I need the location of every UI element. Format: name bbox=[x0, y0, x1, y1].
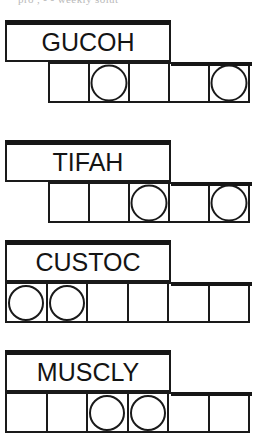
puzzle-row: CUSTOC bbox=[0, 240, 263, 343]
answer-cell[interactable] bbox=[88, 284, 129, 321]
answer-grid[interactable] bbox=[48, 182, 250, 223]
scrambled-word: CUSTOC bbox=[7, 250, 169, 275]
answer-cell[interactable] bbox=[50, 64, 90, 101]
answer-cell[interactable] bbox=[7, 394, 48, 431]
puzzle-row: MUSCLY bbox=[0, 350, 263, 441]
answer-cell[interactable] bbox=[210, 184, 248, 221]
word-box[interactable]: CUSTOC bbox=[5, 240, 171, 282]
circle-marker bbox=[130, 395, 166, 431]
answer-cell[interactable] bbox=[169, 284, 210, 321]
answer-cell[interactable] bbox=[129, 394, 170, 431]
answer-cell[interactable] bbox=[7, 284, 48, 321]
answer-cell[interactable] bbox=[169, 394, 210, 431]
scrambled-word: TIFAH bbox=[7, 150, 169, 175]
circle-marker bbox=[131, 184, 168, 221]
answer-cell[interactable] bbox=[88, 394, 129, 431]
answer-cell[interactable] bbox=[170, 64, 210, 101]
answer-cell[interactable] bbox=[210, 64, 248, 101]
answer-grid[interactable] bbox=[48, 62, 250, 103]
grid-top-rule bbox=[171, 182, 252, 186]
puzzle-row: TIFAH bbox=[0, 140, 263, 243]
circle-marker bbox=[211, 184, 248, 221]
grid-top-rule bbox=[171, 392, 252, 396]
circle-marker bbox=[8, 285, 44, 321]
circle-marker bbox=[211, 64, 248, 101]
answer-cell[interactable] bbox=[210, 394, 249, 431]
answer-grid[interactable] bbox=[5, 282, 250, 323]
answer-grid[interactable] bbox=[5, 392, 250, 433]
circle-marker bbox=[89, 395, 125, 431]
grid-top-rule bbox=[171, 62, 252, 66]
circle-marker bbox=[49, 285, 85, 321]
grid-top-rule bbox=[171, 282, 252, 286]
word-box[interactable]: MUSCLY bbox=[5, 350, 171, 392]
answer-cell[interactable] bbox=[48, 394, 89, 431]
answer-cell[interactable] bbox=[50, 184, 90, 221]
answer-cell[interactable] bbox=[90, 64, 130, 101]
scrambled-word: MUSCLY bbox=[7, 360, 169, 385]
answer-cell[interactable] bbox=[130, 184, 170, 221]
word-box[interactable]: GUCOH bbox=[5, 20, 171, 62]
answer-cell[interactable] bbox=[210, 284, 249, 321]
scrambled-word: GUCOH bbox=[7, 30, 169, 55]
answer-cell[interactable] bbox=[48, 284, 89, 321]
clipped-header-text-label: pro , - - weekly solut bbox=[18, 0, 118, 5]
answer-cell[interactable] bbox=[129, 284, 170, 321]
answer-cell[interactable] bbox=[170, 184, 210, 221]
answer-cell[interactable] bbox=[90, 184, 130, 221]
word-box[interactable]: TIFAH bbox=[5, 140, 171, 182]
clipped-header-text: pro , - - weekly solut bbox=[0, 0, 263, 12]
answer-cell[interactable] bbox=[130, 64, 170, 101]
puzzle-row: GUCOH bbox=[0, 20, 263, 123]
circle-marker bbox=[91, 64, 128, 101]
